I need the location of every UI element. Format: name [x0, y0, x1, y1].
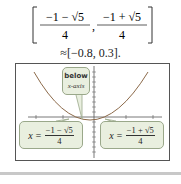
right-root-callout: x = −1 + √5 4	[100, 121, 164, 149]
interval-expression: −1 − √5 4 , −1 + √5 4	[0, 2, 181, 46]
right-root-var: x =	[109, 130, 123, 141]
callout-text-x-axis: x-axis	[63, 81, 89, 91]
divider	[0, 172, 181, 175]
svg-text:,: ,	[92, 19, 95, 33]
right-denominator: 4	[119, 28, 125, 42]
left-denominator: 4	[62, 28, 68, 42]
below-x-axis-callout: below x-axis	[62, 67, 90, 95]
left-root-callout: x = −1 − √5 4	[19, 121, 83, 149]
graph-frame: below x-axis x = −1 − √5 4 x = −1 + √5 4	[15, 63, 170, 161]
callout-text-below: below	[63, 71, 89, 81]
right-root-denominator: 4	[138, 136, 142, 146]
right-numerator: −1 + √5	[103, 10, 141, 24]
left-root-var: x =	[28, 130, 42, 141]
left-root-denominator: 4	[57, 136, 61, 146]
right-root-numerator: −1 + √5	[126, 125, 155, 136]
left-numerator: −1 − √5	[46, 10, 84, 24]
left-root-numerator: −1 − √5	[45, 125, 74, 136]
approximation: ≈[−0.8, 0.3].	[0, 46, 181, 61]
